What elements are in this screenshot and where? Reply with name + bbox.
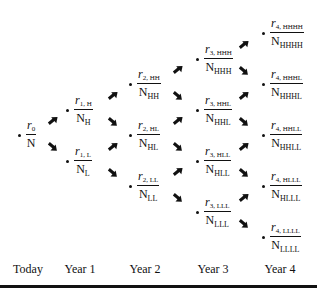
node-notional: NHL	[139, 135, 158, 152]
arrow-down-icon	[172, 91, 179, 98]
node-rate: r4, HLLL	[270, 170, 302, 186]
node-rate: r1, H	[74, 94, 93, 110]
arrow-down-icon	[107, 117, 114, 124]
node-rate: r2, HL	[137, 119, 160, 135]
node-rate: r3, LLL	[204, 196, 231, 212]
node-notional: NLLL	[206, 212, 229, 229]
tree-node-n1L: r1, LNL	[66, 145, 92, 178]
node-fraction: r1, LNL	[74, 145, 92, 178]
tree-node-n4HHHL: r4, HHHLNHHHL	[262, 68, 303, 101]
bottom-rule	[0, 285, 317, 288]
node-dot	[196, 109, 199, 112]
node-dot	[196, 160, 199, 163]
node-dot	[262, 236, 265, 239]
node-notional: NLL	[139, 186, 157, 203]
node-rate: r3, HHH	[204, 43, 233, 59]
tree-node-n2HL: r2, HLNHL	[129, 119, 160, 152]
tree-node-n0: r0N	[18, 119, 36, 152]
node-dot	[129, 83, 132, 86]
node-fraction: r4, HLLLNHLLL	[270, 170, 302, 203]
node-fraction: r3, LLLNLLL	[204, 196, 231, 229]
node-fraction: r2, HLNHL	[137, 119, 160, 152]
node-dot	[262, 134, 265, 137]
node-dot	[262, 32, 265, 35]
tree-node-n2LL: r2, LLNLL	[129, 170, 159, 203]
arrow-down-icon	[239, 117, 246, 124]
arrow-up-icon	[239, 93, 246, 100]
tree-node-n3LLL: r3, LLLNLLL	[196, 196, 231, 229]
node-notional: NHHLL	[271, 135, 301, 152]
period-label-year-4: Year 4	[250, 262, 310, 277]
node-rate: r2, LL	[137, 170, 159, 186]
arrow-up-icon	[107, 144, 114, 151]
arrow-up-icon	[239, 195, 246, 202]
period-label-year-3: Year 3	[183, 262, 243, 277]
node-notional: NHHHH	[271, 33, 303, 50]
node-dot	[196, 211, 199, 214]
arrow-up-icon	[48, 118, 55, 125]
node-notional: NHLL	[206, 161, 230, 178]
arrow-down-icon	[172, 193, 179, 200]
tree-node-n3HLL: r3, HLLNHLL	[196, 145, 231, 178]
node-notional: NL	[76, 161, 90, 178]
arrow-down-icon	[239, 66, 246, 73]
tree-node-n4HLLL: r4, HLLLNHLLL	[262, 170, 302, 203]
tree-node-n3HHH: r3, HHHNHHH	[196, 43, 233, 76]
node-fraction: r4, HHHLNHHHL	[270, 68, 303, 101]
node-rate: r2, HH	[137, 68, 161, 84]
node-dot	[66, 160, 69, 163]
node-rate: r4, LLLL	[270, 221, 301, 237]
arrow-down-icon	[172, 142, 179, 149]
arrow-down-icon	[107, 168, 114, 175]
node-notional: NHHHL	[271, 84, 302, 101]
tree-node-n4HHLL: r4, HHLLNHHLL	[262, 119, 302, 152]
arrow-down-icon	[239, 168, 246, 175]
arrow-up-icon	[172, 118, 179, 125]
node-notional: NHH	[139, 84, 159, 101]
node-dot	[129, 134, 132, 137]
node-fraction: r4, HHHHNHHHH	[270, 17, 304, 50]
node-dot	[129, 185, 132, 188]
tree-node-n3HHL: r3, HHLNHHL	[196, 94, 232, 127]
node-rate: r0	[26, 119, 36, 135]
node-rate: r3, HHL	[204, 94, 232, 110]
arrow-up-icon	[107, 93, 114, 100]
node-notional: NHLLL	[271, 186, 300, 203]
node-dot	[196, 58, 199, 61]
node-fraction: r2, HHNHH	[137, 68, 161, 101]
node-fraction: r3, HHHNHHH	[204, 43, 233, 76]
tree-node-n1H: r1, HNH	[66, 94, 93, 127]
node-dot	[18, 134, 21, 137]
period-label-year-1: Year 1	[50, 262, 110, 277]
node-fraction: r0N	[26, 119, 36, 152]
tree-node-n4LLLL: r4, LLLLNLLLL	[262, 221, 301, 254]
node-notional: NLLLL	[271, 237, 299, 254]
node-rate: r1, L	[74, 145, 92, 161]
node-fraction: r3, HHLNHHL	[204, 94, 232, 127]
node-dot	[262, 83, 265, 86]
node-fraction: r4, LLLLNLLLL	[270, 221, 301, 254]
node-fraction: r1, HNH	[74, 94, 93, 127]
arrow-up-icon	[172, 169, 179, 176]
arrow-up-icon	[172, 67, 179, 74]
period-label-year-2: Year 2	[115, 262, 175, 277]
node-notional: N	[27, 135, 36, 152]
node-fraction: r4, HHLLNHHLL	[270, 119, 302, 152]
arrow-down-icon	[48, 142, 55, 149]
node-fraction: r2, LLNLL	[137, 170, 159, 203]
node-notional: NHHL	[205, 110, 230, 127]
node-dot	[262, 185, 265, 188]
tree-node-n4HHHH: r4, HHHHNHHHH	[262, 17, 304, 50]
node-rate: r4, HHHH	[270, 17, 304, 33]
arrow-up-icon	[239, 42, 246, 49]
tree-node-n2HH: r2, HHNHH	[129, 68, 161, 101]
node-rate: r4, HHLL	[270, 119, 302, 135]
node-rate: r4, HHHL	[270, 68, 303, 84]
node-rate: r3, HLL	[204, 145, 231, 161]
node-dot	[66, 109, 69, 112]
arrow-up-icon	[239, 144, 246, 151]
node-fraction: r3, HLLNHLL	[204, 145, 231, 178]
arrow-down-icon	[239, 219, 246, 226]
node-notional: NH	[76, 110, 90, 127]
node-notional: NHHH	[205, 59, 231, 76]
